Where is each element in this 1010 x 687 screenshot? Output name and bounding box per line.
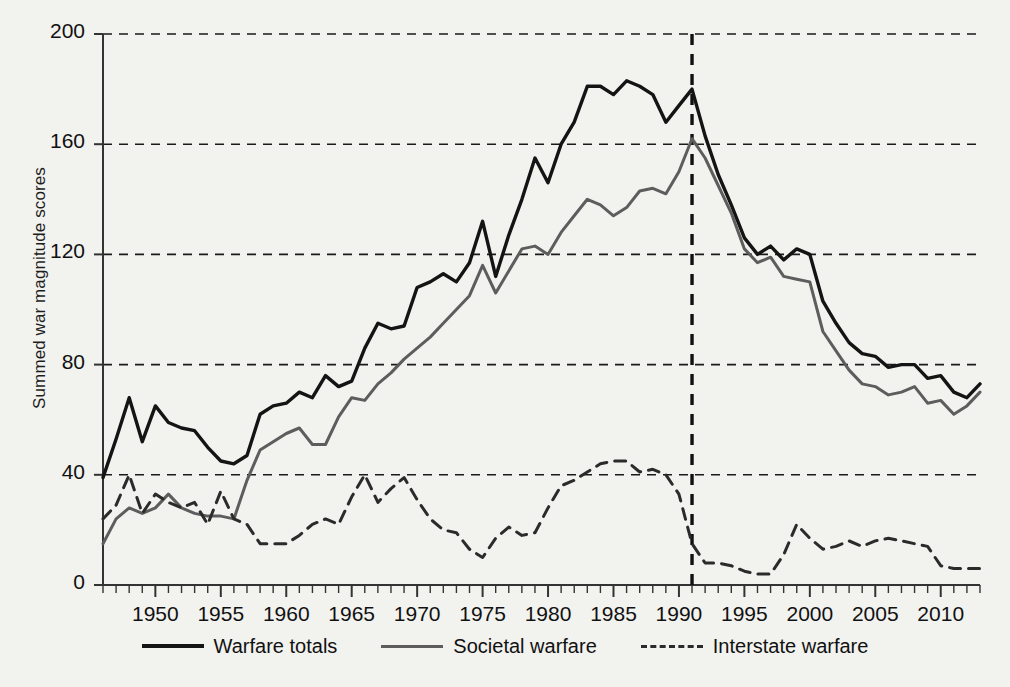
x-tick-label: 2010 bbox=[901, 602, 981, 626]
legend-item-societal-warfare: Societal warfare bbox=[381, 636, 596, 656]
y-tick-label: 80 bbox=[25, 350, 85, 374]
y-tick-label: 160 bbox=[25, 129, 85, 153]
legend-label-interstate-warfare: Interstate warfare bbox=[713, 636, 869, 656]
legend-label-warfare-totals: Warfare totals bbox=[214, 636, 338, 656]
chart-legend: Warfare totals Societal warfare Intersta… bbox=[0, 636, 1010, 656]
data-series-layer bbox=[103, 81, 980, 574]
legend-item-interstate-warfare: Interstate warfare bbox=[641, 636, 869, 656]
y-tick-label: 120 bbox=[25, 239, 85, 263]
y-axis-label: Summed war magnitude scores bbox=[30, 108, 50, 468]
legend-item-warfare-totals: Warfare totals bbox=[142, 636, 338, 656]
y-tick-label: 0 bbox=[25, 570, 85, 594]
tick-marks bbox=[94, 34, 980, 597]
chart-plot-area bbox=[0, 0, 1010, 687]
legend-swatch-solid-gray-icon bbox=[381, 645, 443, 648]
y-tick-label: 200 bbox=[25, 19, 85, 43]
chart-figure: Summed war magnitude scores 040801201602… bbox=[0, 0, 1010, 687]
gridlines bbox=[103, 34, 980, 475]
y-tick-label: 40 bbox=[25, 460, 85, 484]
legend-label-societal-warfare: Societal warfare bbox=[453, 636, 596, 656]
axes bbox=[103, 34, 980, 585]
series-line-interstate-warfare bbox=[103, 461, 980, 574]
series-line-warfare-totals bbox=[103, 81, 980, 478]
legend-swatch-dashed-icon bbox=[641, 645, 703, 648]
legend-swatch-solid-black-icon bbox=[142, 644, 204, 648]
